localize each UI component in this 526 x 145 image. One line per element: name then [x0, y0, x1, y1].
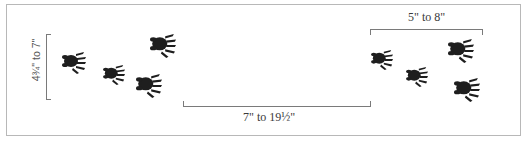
- paw-print-icon: [146, 33, 180, 59]
- paw-print-icon: [404, 66, 430, 88]
- paw-print-icon: [60, 51, 88, 75]
- paw-print-icon: [444, 38, 478, 64]
- straddle-label: 4¾" to 7": [30, 32, 42, 88]
- paw-print-icon: [100, 64, 128, 86]
- stride-label: 7" to 19½": [243, 110, 295, 125]
- paw-print-icon: [369, 49, 395, 71]
- paw-print-icon: [450, 77, 484, 103]
- group-length-label: 5" to 8": [408, 10, 445, 25]
- paw-print-icon: [131, 73, 167, 99]
